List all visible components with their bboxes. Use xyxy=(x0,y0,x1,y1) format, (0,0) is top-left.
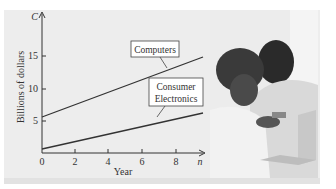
y-axis-variable: C xyxy=(31,11,38,22)
x-tick-6: 6 xyxy=(140,156,145,167)
figure: C 5 10 15 0 2 4 6 8 n Year Billions of d… xyxy=(0,0,336,189)
y-tick-5: 5 xyxy=(33,115,38,126)
callout-consumer-text-1: Consumer xyxy=(156,82,196,92)
y-tick-10: 10 xyxy=(28,83,38,94)
photo-couple-laptop xyxy=(210,10,318,178)
x-axis-variable: n xyxy=(198,156,203,167)
x-tick-4: 4 xyxy=(106,156,111,167)
x-tick-8: 8 xyxy=(174,156,179,167)
x-axis-label: Year xyxy=(114,166,133,177)
series-consumer-electronics xyxy=(42,113,203,149)
callout-consumer-electronics: Consumer Electronics xyxy=(149,78,203,117)
callout-computers-text: Computers xyxy=(134,45,176,55)
x-tick-0: 0 xyxy=(40,156,45,167)
callout-consumer-text-2: Electronics xyxy=(155,94,198,104)
x-tick-2: 2 xyxy=(73,156,78,167)
y-tick-15: 15 xyxy=(28,50,38,61)
y-axis-label: Billions of dollars xyxy=(15,51,26,123)
callout-computers: Computers xyxy=(131,41,179,68)
